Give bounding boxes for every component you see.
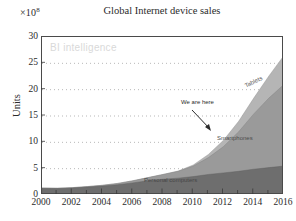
area-layers xyxy=(42,55,283,194)
x-tick-2000: 2000 xyxy=(24,198,58,208)
series-label-smartphones: Smartphones xyxy=(217,135,253,141)
y-tick-10: 10 xyxy=(2,137,38,147)
exponent-mantissa: ×10 xyxy=(20,7,36,18)
annotation-we-are-here: We are here xyxy=(181,99,214,105)
y-tick-25: 25 xyxy=(2,58,38,68)
x-tick-2010: 2010 xyxy=(175,198,209,208)
plot-area: BI intelligence Personal computers Smart… xyxy=(41,36,283,194)
stacked-area-series xyxy=(42,37,283,194)
y-tick-20: 20 xyxy=(2,85,38,95)
x-axis-tick-labels: 2000 2002 2004 2006 2008 2010 2012 2014 … xyxy=(41,198,283,212)
y-axis-exponent-label: ×108 xyxy=(20,6,40,18)
y-tick-30: 30 xyxy=(2,32,38,42)
x-tick-2016: 2016 xyxy=(266,198,296,208)
chart-figure: ×108 Global Internet device sales Units … xyxy=(0,0,296,221)
series-label-personal-computers: Personal computers xyxy=(144,177,197,183)
y-axis-tick-labels: 30 25 20 15 10 5 0 xyxy=(0,36,38,194)
annotation-arrow-icon xyxy=(189,107,219,137)
x-tick-2002: 2002 xyxy=(54,198,88,208)
x-tick-2004: 2004 xyxy=(85,198,119,208)
x-tick-2014: 2014 xyxy=(236,198,270,208)
x-tick-2006: 2006 xyxy=(115,198,149,208)
chart-title: Global Internet device sales xyxy=(41,5,283,16)
y-tick-5: 5 xyxy=(2,164,38,174)
x-tick-2008: 2008 xyxy=(145,198,179,208)
y-tick-15: 15 xyxy=(2,111,38,121)
exponent-power: 8 xyxy=(36,6,40,14)
x-tick-2012: 2012 xyxy=(206,198,240,208)
